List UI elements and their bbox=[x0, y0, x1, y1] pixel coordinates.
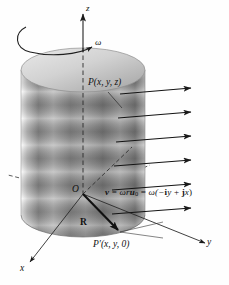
axis-label-z: z bbox=[86, 4, 90, 13]
axis-label-y: y bbox=[207, 238, 211, 248]
equation-rhs-close: ) bbox=[189, 187, 192, 197]
equation-rhs-open: ω(− bbox=[149, 187, 165, 197]
equation-plus: + bbox=[174, 187, 179, 197]
equation-lhs: v bbox=[105, 187, 109, 197]
equation-equals-2: = bbox=[141, 187, 146, 197]
point-p-prime-label: P′(x, y, 0) bbox=[93, 240, 129, 250]
equation-equals-1: = bbox=[112, 187, 117, 197]
equation-u-subscript: 0 bbox=[135, 190, 138, 197]
velocity-equation: v = ωru0 = ω(−iy + jx) bbox=[105, 188, 192, 198]
equation-omega-r: ωr bbox=[119, 187, 129, 197]
omega-label: ω bbox=[95, 38, 101, 47]
axis-label-x: x bbox=[20, 264, 24, 274]
equation-y-term: y bbox=[167, 187, 171, 197]
point-p-label: P(x, y, z) bbox=[88, 78, 121, 88]
figure-canvas: z ω P(x, y, z) O R P′(x, y, 0) x y v = ω… bbox=[0, 0, 229, 285]
cylinder-top-face bbox=[21, 48, 145, 92]
radius-vector-label: R bbox=[80, 218, 87, 228]
origin-label: O bbox=[72, 185, 79, 195]
